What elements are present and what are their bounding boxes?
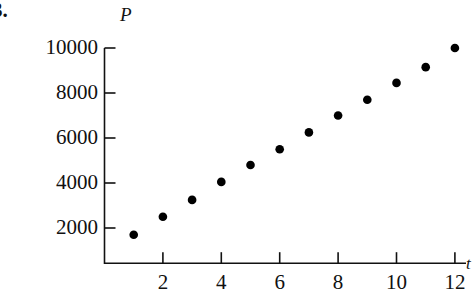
y-axis-ticks: [105, 48, 116, 228]
data-point: [246, 161, 255, 170]
data-point: [159, 212, 168, 221]
scatter-plot-figure: 3. P t 200040006000800010000 24681012: [0, 0, 476, 300]
x-axis-ticks: [163, 252, 455, 263]
data-point: [188, 196, 197, 205]
x-axis-tick-label: 4: [216, 272, 227, 293]
data-point: [129, 230, 138, 239]
x-axis-tick-label: 6: [274, 272, 285, 293]
axis-lines: [105, 48, 467, 264]
x-axis-tick-label: 12: [444, 272, 465, 293]
x-axis-tick-label: 10: [386, 272, 407, 293]
data-point: [421, 63, 430, 72]
x-axis-tick-label: 8: [333, 272, 344, 293]
data-point-series: [129, 44, 459, 239]
data-point: [305, 128, 314, 137]
data-point: [217, 178, 226, 187]
x-axis-tick-label: 2: [158, 272, 169, 293]
data-point: [334, 111, 343, 120]
data-point: [392, 79, 401, 88]
data-point: [275, 145, 284, 154]
plot-canvas: [0, 0, 476, 300]
data-point: [363, 95, 372, 104]
data-point: [451, 44, 460, 53]
